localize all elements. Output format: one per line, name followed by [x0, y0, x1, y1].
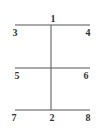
- label-4: 4: [83, 28, 93, 38]
- label-7: 7: [9, 113, 19, 123]
- label-1: 1: [48, 14, 58, 24]
- label-3: 3: [10, 28, 20, 38]
- line-diagram: 1 3 4 5 6 7 2 8: [0, 0, 101, 135]
- label-8: 8: [83, 113, 93, 123]
- label-5: 5: [12, 71, 22, 81]
- label-2: 2: [47, 113, 57, 123]
- label-6: 6: [81, 71, 91, 81]
